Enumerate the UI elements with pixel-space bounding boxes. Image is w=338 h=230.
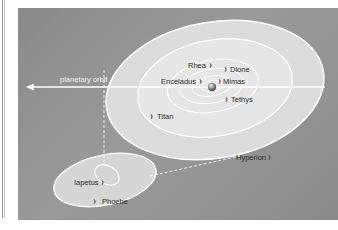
saturn-moon-orbits-diagram: planetary orbit Rhea Dione Enceladus Mim… [0, 0, 338, 230]
moon-label-titan: Titan [157, 112, 173, 121]
moon-label-rhea: Rhea [188, 61, 207, 70]
moon-label-hyperion: Hyperion [236, 153, 266, 162]
moon-label-phoebe: Phoebe [102, 197, 128, 206]
moon-label-mimas: Mimas [223, 77, 245, 86]
moon-label-tethys: Tethys [231, 95, 253, 104]
hyperion-marker-icon [268, 155, 271, 160]
moon-label-dione: Dione [230, 65, 250, 74]
moon-label-iapetus: Iapetus [74, 178, 99, 187]
planetary-orbit-label: planetary orbit [60, 75, 108, 84]
saturn-planet [208, 83, 216, 91]
moon-label-enceladus: Enceladus [161, 77, 196, 86]
inner-system-disc [95, 4, 335, 176]
